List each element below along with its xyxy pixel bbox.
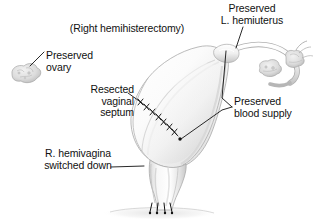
label-preserved-blood-supply: Preserved blood supply bbox=[234, 96, 315, 119]
label-preserved-ovary: Preserved ovary bbox=[46, 50, 126, 73]
vaginal-canal bbox=[149, 160, 186, 210]
label-right-hemivagina-switched-down: R. hemivagina switched down bbox=[26, 148, 130, 171]
leader-ovary bbox=[30, 52, 44, 66]
label-preserved-left-hemiuterus: Preserved L. hemiuterus bbox=[196, 3, 308, 26]
preserved-ovary-structure bbox=[12, 64, 41, 83]
uterine-corpus bbox=[131, 46, 228, 168]
figure-title: (Right hemihisterectomy) bbox=[64, 23, 190, 35]
medical-illustration-figure: (Right hemihisterectomy) Preserved L. he… bbox=[0, 0, 315, 224]
label-resected-vaginal-septum: Resected vaginal septum bbox=[58, 84, 134, 119]
